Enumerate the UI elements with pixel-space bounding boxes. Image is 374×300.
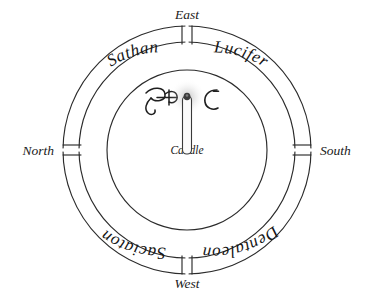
candle-body [183,96,192,154]
gate-east [182,24,192,46]
magic-circle-canvas: Sathan Lucifer Dentaleon Saciaton East N… [0,0,374,300]
flame-core [186,94,189,97]
ring-name-dentaleon-text: Dentaleon [201,222,283,263]
cardinal-label-west: West [174,276,200,291]
ring-name-dentaleon: Dentaleon [201,222,283,263]
gate-south [291,145,313,155]
cardinal-label-south: South [320,143,351,158]
ring-name-lucifer-text: Lucifer [213,37,272,71]
sigil-right-icon [205,90,219,109]
gate-west [182,254,192,276]
cardinal-label-north: North [21,143,54,158]
ring-name-sathan: Sathan [103,37,159,70]
ring-name-lucifer: Lucifer [213,37,272,71]
gate-north [61,145,83,155]
cardinal-label-east: East [174,7,200,22]
ring-name-sathan-text: Sathan [103,37,159,70]
magic-circle-diagram: Sathan Lucifer Dentaleon Saciaton East N… [0,0,374,300]
